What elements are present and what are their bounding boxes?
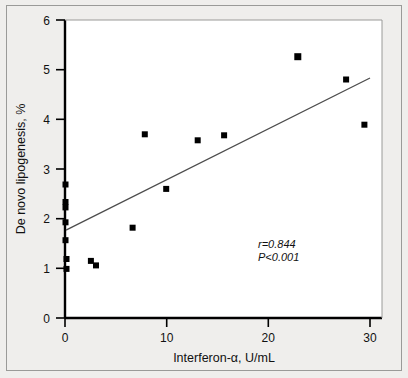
plot-panel <box>65 20 382 318</box>
x-tick-marks <box>65 318 370 327</box>
data-point <box>343 77 349 83</box>
scatter-plot: 6 5 4 3 2 1 0 0 10 20 30 <box>0 0 408 378</box>
y-tick-labels: 6 5 4 3 2 1 0 <box>43 14 50 326</box>
x-axis-label: Interferon-α, U/mL <box>173 351 275 365</box>
y-axis-label: De novo lipogenesis, % <box>14 104 28 235</box>
data-point <box>64 256 70 262</box>
x-tick-label: 0 <box>62 331 69 345</box>
data-point <box>361 122 367 128</box>
y-tick-label: 1 <box>43 262 50 276</box>
data-point <box>93 262 99 268</box>
data-point <box>221 132 227 138</box>
data-point <box>64 266 70 272</box>
data-point <box>63 219 69 225</box>
x-tick-label: 10 <box>160 331 174 345</box>
correlation-annotation: r=0.844 <box>258 238 296 250</box>
y-tick-label: 0 <box>43 312 50 326</box>
data-point <box>63 204 69 210</box>
data-point <box>63 182 69 188</box>
y-tick-label: 3 <box>43 163 50 177</box>
data-point <box>63 237 69 243</box>
x-tick-label: 20 <box>262 331 276 345</box>
data-point <box>142 131 148 137</box>
data-point <box>163 186 169 192</box>
data-point <box>195 137 201 143</box>
x-tick-labels: 0 10 20 30 <box>62 331 377 345</box>
figure-container: 6 5 4 3 2 1 0 0 10 20 30 <box>0 0 408 378</box>
data-point <box>63 199 69 205</box>
data-point <box>130 225 136 231</box>
y-tick-label: 4 <box>43 113 50 127</box>
x-tick-label: 30 <box>363 331 377 345</box>
y-tick-label: 6 <box>43 14 50 28</box>
data-point <box>294 53 301 60</box>
y-tick-label: 5 <box>43 63 50 77</box>
y-tick-marks <box>56 20 65 318</box>
pvalue-annotation: P<0.001 <box>258 251 299 263</box>
y-tick-label: 2 <box>43 212 50 226</box>
